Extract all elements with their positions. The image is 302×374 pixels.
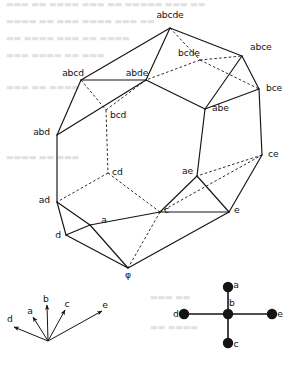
polytope-edge <box>242 56 259 89</box>
vertex-labels-group: abcdeabcebcdeabcdabdebceabebcdabdcecdaea… <box>33 9 282 280</box>
star-graph-nodes <box>179 282 277 348</box>
scan-bleed-line-1: ▬▬▬▬ ▬▬ ▬▬▬ ▬▬▬▬ ▬▬▬ ▬▬ <box>6 17 155 26</box>
star-node-label-a: a <box>233 279 239 290</box>
polytope-vertex-label-abce: abce <box>250 41 272 52</box>
polytope-vertex-label-c: c <box>164 204 169 215</box>
root-vector-fan-group: dabce <box>7 293 108 341</box>
fan-arrow-d <box>14 327 48 341</box>
scan-bleed-line-7: ▬▬ ▬▬▬▬ <box>150 323 198 332</box>
star-node-label-b: b <box>229 297 235 308</box>
polytope-vertex-label-abcde: abcde <box>156 9 184 20</box>
scan-bleed-line-6: ▬▬▬ ▬▬ <box>150 293 190 302</box>
polytope-hidden-edge <box>106 110 108 173</box>
star-node-a <box>223 282 233 292</box>
scan-bleed-line-3: ▬▬▬ ▬▬▬▬ ▬▬ ▬▬▬ <box>6 51 104 60</box>
polytope-vertex-label-abde: abde <box>126 67 149 78</box>
polytope-vertex-label-cd: cd <box>112 166 123 177</box>
polytope-vertex-label-phi: φ <box>125 269 131 280</box>
polytope-edge <box>259 89 262 155</box>
polytope-vertex-label-abe: abe <box>212 102 229 113</box>
polytope-vertex-label-bce: bce <box>266 82 283 93</box>
fan-labels: dabce <box>7 293 108 324</box>
fan-arrow-b <box>47 305 48 341</box>
polytope-edge <box>66 225 90 235</box>
polytope-edge <box>66 235 128 268</box>
polytope-edge <box>197 109 205 176</box>
fan-arrow-label-c: c <box>64 298 69 309</box>
figure-root: ▬▬▬ ▬▬ ▬▬▬▬ ▬▬▬ ▬▬ ▬▬▬▬▬ ▬▬▬ ▬▬▬▬▬▬ ▬▬ ▬… <box>0 0 302 374</box>
fan-arrow-label-e: e <box>102 299 108 310</box>
polytope-vertex-label-d: d <box>55 229 61 240</box>
polytope-edge <box>128 212 229 268</box>
polytope-vertex-label-a: a <box>101 214 106 225</box>
polytope-hidden-edge <box>108 173 160 212</box>
polytope-hidden-edge <box>200 56 242 60</box>
fan-arrow-label-d: d <box>7 313 13 324</box>
star-node-b <box>223 309 233 319</box>
scan-bleed-line-0: ▬▬▬ ▬▬ ▬▬▬▬ ▬▬▬ ▬▬ ▬▬▬▬▬ ▬▬▬ ▬▬ <box>6 0 205 9</box>
star-node-label-e: e <box>277 308 283 319</box>
scan-bleed-layer: ▬▬▬ ▬▬ ▬▬▬▬ ▬▬▬ ▬▬ ▬▬▬▬▬ ▬▬▬ ▬▬▬▬▬▬ ▬▬ ▬… <box>6 0 205 332</box>
polytope-vertex-label-ce: ce <box>268 148 279 159</box>
polytope-figure-svg: ▬▬▬ ▬▬ ▬▬▬▬ ▬▬▬ ▬▬ ▬▬▬▬▬ ▬▬▬ ▬▬▬▬▬▬ ▬▬ ▬… <box>0 0 302 374</box>
scan-bleed-line-2: ▬▬ ▬▬▬▬ ▬▬▬ ▬▬ ▬▬▬▬ <box>6 34 130 43</box>
polytope-vertex-label-bcd: bcd <box>110 109 126 120</box>
polytope-edge <box>90 225 128 268</box>
polytope-edge <box>197 176 229 212</box>
scan-bleed-line-5: ▬▬▬▬ ▬▬ ▬▬▬ <box>6 153 79 162</box>
polytope-vertex-label-ad: ad <box>39 194 50 205</box>
hidden-edges-group <box>57 28 262 268</box>
polytope-hidden-edge <box>106 80 146 110</box>
star-node-label-c: c <box>233 338 238 349</box>
star-node-e <box>267 309 277 319</box>
polytope-hidden-edge <box>81 80 106 110</box>
fan-arrow-label-a: a <box>27 305 33 316</box>
star-node-d <box>179 309 189 319</box>
polytope-vertex-label-bcde: bcde <box>178 47 200 58</box>
polytope-vertex-label-abd: abd <box>33 126 50 137</box>
polytope-hidden-edge <box>57 173 108 202</box>
fan-arrow-label-b: b <box>43 293 49 304</box>
scan-bleed-line-4: ▬▬▬ ▬▬ ▬▬▬▬ <box>6 83 79 92</box>
star-graph-group: baecd <box>173 279 283 349</box>
polytope-vertex-label-abcd: abcd <box>62 67 84 78</box>
polytope-edge <box>146 80 205 109</box>
polytope-hidden-edge <box>160 155 262 212</box>
polytope-vertex-label-e: e <box>234 204 240 215</box>
star-node-label-d: d <box>173 308 179 319</box>
polytope-vertex-label-ae: ae <box>182 165 193 176</box>
solid-edges-group <box>57 28 262 268</box>
star-node-c <box>223 338 233 348</box>
